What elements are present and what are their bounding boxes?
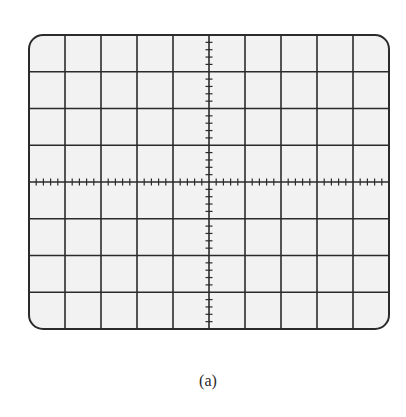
oscilloscope-screen bbox=[0, 0, 406, 360]
figure-caption: (a) bbox=[0, 372, 406, 390]
